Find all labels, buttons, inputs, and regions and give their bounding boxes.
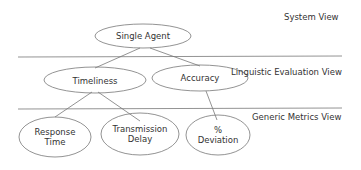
- edge-root-timeliness: [95, 48, 140, 68]
- system-view-label: System View: [284, 12, 339, 22]
- node-accuracy: Accuracy: [152, 65, 248, 91]
- node-label-line1: Response: [35, 127, 76, 137]
- node-label: Single Agent: [116, 31, 170, 41]
- node-label: Timeliness: [73, 76, 118, 86]
- separator-system-linguistic: [18, 56, 342, 57]
- edge-timeliness-response: [55, 92, 92, 117]
- node-deviation: % Deviation: [186, 115, 250, 155]
- node-timeliness: Timeliness: [44, 68, 146, 94]
- edge-root-accuracy: [150, 48, 200, 66]
- node-transmission-delay: Transmission Delay: [101, 113, 179, 155]
- node-label-line1: Transmission: [113, 124, 168, 134]
- node-label-line1: %: [214, 125, 222, 135]
- node-response-time: Response Time: [19, 117, 91, 157]
- node-label-line2: Delay: [128, 134, 152, 144]
- node-label-line2: Time: [45, 137, 66, 147]
- node-label-line2: Deviation: [198, 135, 239, 145]
- node-label: Accuracy: [181, 73, 220, 83]
- generic-view-label: Generic Metrics View: [252, 112, 341, 122]
- node-single-agent: Single Agent: [95, 24, 191, 48]
